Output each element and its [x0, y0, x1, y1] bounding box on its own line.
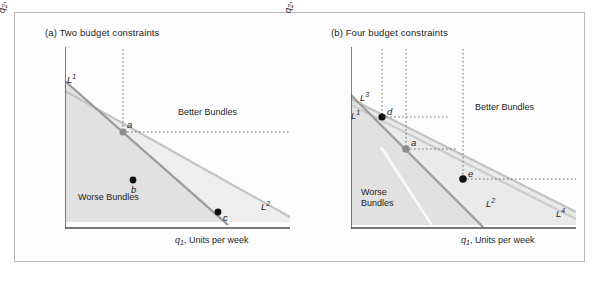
panel-b-worse-bundles-label: Worse Bundles [361, 187, 394, 209]
figure-container: (a) Two budget constraints q2, Units per… [0, 0, 601, 282]
panel-a-point-label-a: a [127, 119, 132, 130]
panel-b-point-label-a: a [411, 137, 416, 148]
panel-b-label-l4: L4 [556, 207, 565, 219]
panel-a-worse-bundles-label: Worse Bundles [78, 192, 139, 203]
panel-b-x-axis-label: q1, Units per week [461, 235, 534, 246]
panel-b-point-d [378, 113, 385, 120]
panel-b: (b) Four budget constraints q2, Units pe… [301, 13, 586, 263]
panel-b-better-bundles-label: Better Bundles [475, 102, 534, 113]
panel-b-worse-line1: Worse [361, 187, 387, 197]
panel-a: (a) Two budget constraints q2, Units per… [15, 13, 301, 263]
panel-a-better-bundles-label: Better Bundles [178, 107, 237, 118]
panel-a-point-b [130, 177, 137, 184]
panel-b-worse-line2: Bundles [361, 198, 394, 208]
panel-b-label-l1: L1 [351, 109, 360, 121]
panel-a-point-label-c: c [223, 212, 228, 223]
panel-b-label-l3: L3 [360, 91, 369, 103]
panel-a-label-l2: L2 [261, 200, 270, 212]
panel-b-point-a [402, 145, 410, 153]
panel-a-plot: L1 L2 a b c Better Bundles Worse Bundles [65, 47, 290, 229]
panel-b-point-label-d: d [387, 106, 392, 117]
panel-a-point-a [119, 128, 126, 135]
panel-b-point-label-e: e [468, 168, 473, 179]
panel-b-label-l2: L2 [486, 197, 495, 209]
figure-frame: (a) Two budget constraints q2, Units per… [14, 12, 585, 262]
panel-b-title: (b) Four budget constraints [331, 27, 448, 38]
panel-a-x-axis-label: q1, Units per week [175, 235, 248, 246]
panel-b-point-e [459, 175, 467, 183]
panel-a-label-l1: L1 [67, 73, 76, 85]
panel-a-title: (a) Two budget constraints [45, 27, 159, 38]
panel-a-point-c [215, 209, 222, 216]
panel-b-plot: L3 L1 L2 L4 d a e Better Bundles Worse B… [351, 47, 576, 229]
